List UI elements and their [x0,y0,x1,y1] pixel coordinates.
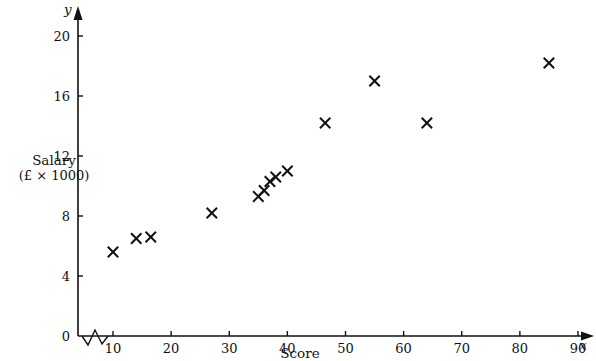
x-tick-label: 10 [105,341,122,356]
data-point-marker [146,232,156,242]
x-tick-label: 80 [512,341,529,356]
data-point-marker [108,247,118,257]
y-tick-label: 20 [48,29,70,44]
y-tick-label: 0 [48,329,70,344]
data-point-marker [259,185,269,195]
data-point-marker [131,233,141,243]
y-axis-variable-label: y [64,1,72,17]
data-markers-group [108,58,554,257]
y-tick-label: 8 [48,209,70,224]
ticks-group [78,36,578,336]
data-point-marker [282,166,292,176]
x-tick-label: 70 [453,341,470,356]
data-point-marker [422,118,432,128]
data-point-marker [544,58,554,68]
y-tick-label: 16 [48,89,70,104]
data-point-marker [207,208,217,218]
y-tick-label: 4 [48,269,70,284]
x-axis-title: Score [280,345,319,361]
y-axis-title-line-2: (£ × 1000) [8,168,100,184]
x-tick-label: 50 [337,341,354,356]
x-axis-variable-label: x [579,337,587,353]
x-tick-label: 30 [221,341,238,356]
y-axis-arrow-icon [74,6,83,20]
data-point-marker [271,172,281,182]
y-axis-title: Salary (£ × 1000) [8,152,100,184]
x-tick-label: 60 [395,341,412,356]
y-axis-title-line-1: Salary [32,152,76,168]
x-tick-label: 20 [163,341,180,356]
scatter-plot-figure: 102030405060708090048121620 y x Salary (… [0,0,596,361]
data-point-marker [369,76,379,86]
data-point-marker [320,118,330,128]
axes-group [74,6,595,345]
